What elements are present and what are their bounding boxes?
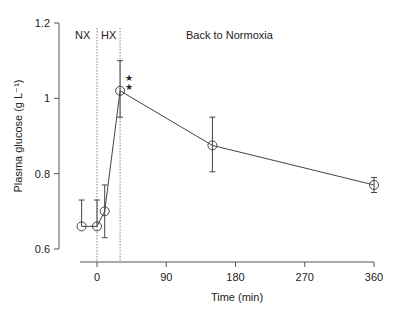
phase-label-hx: HX (101, 29, 117, 41)
data-series (77, 61, 378, 238)
y-tick-label: 0.8 (35, 168, 50, 180)
x-axis-label: Time (min) (211, 291, 263, 303)
phase-label-back-to-normoxia: Back to Normoxia (186, 29, 274, 41)
phase-lines (97, 28, 120, 262)
x-tick-label: 0 (94, 271, 100, 283)
x-tick-label: 180 (226, 271, 244, 283)
significance-star-2: ★ (125, 82, 133, 92)
x-tick-label: 360 (365, 271, 383, 283)
y-axis-label: Plasma glucose (g L⁻¹) (12, 80, 24, 193)
y-tick-label: 1 (44, 92, 50, 104)
y-tick-label: 0.6 (35, 243, 50, 255)
y-tick-label: 1.2 (35, 17, 50, 29)
x-tick-label: 270 (296, 271, 314, 283)
series-line (82, 91, 374, 227)
axes: 0.60.811.2090180270360 (35, 17, 383, 283)
glucose-chart: 0.60.811.2090180270360 NX HX Back to Nor… (0, 0, 401, 317)
x-tick-label: 90 (160, 271, 172, 283)
phase-label-nx: NX (75, 29, 91, 41)
y-axis-label-text: Plasma glucose (g L⁻¹) (12, 80, 24, 193)
